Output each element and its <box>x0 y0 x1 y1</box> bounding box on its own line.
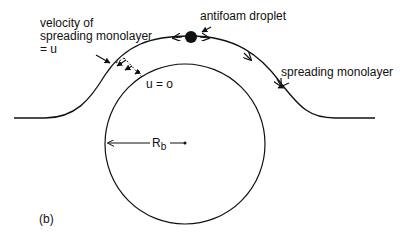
velocity-label-line3: = u <box>40 43 57 56</box>
bubble-center-dot <box>184 142 187 145</box>
antifoam-droplet <box>185 31 197 43</box>
velocity-arrow-1 <box>117 60 126 66</box>
velocity-arrow-2 <box>125 66 132 70</box>
flow-arrow-mid <box>244 53 251 60</box>
antifoam-pointer-arrow <box>202 27 211 32</box>
radius-label: Rb <box>152 137 166 153</box>
radius-symbol: R <box>152 136 161 150</box>
u-zero-label: u = o <box>146 78 173 91</box>
antifoam-label: antifoam droplet <box>200 10 286 23</box>
velocity-profile-dashed <box>124 58 143 78</box>
spreading-monolayer-label: spreading monolayer <box>281 66 393 79</box>
velocity-arrow-3 <box>135 72 138 74</box>
panel-label: (b) <box>39 213 54 226</box>
velocity-pointer-arrow <box>96 55 110 63</box>
radius-subscript: b <box>161 141 167 152</box>
